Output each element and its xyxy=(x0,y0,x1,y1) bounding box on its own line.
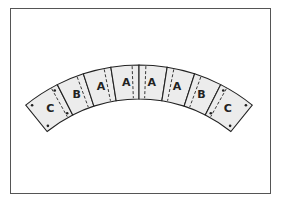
bolt-dot xyxy=(210,112,213,115)
bolt-dot xyxy=(66,112,69,115)
bolt-dot xyxy=(47,125,50,128)
bolt-dot xyxy=(53,89,56,92)
arch-block-a: A xyxy=(111,65,139,101)
bolt-dot xyxy=(245,104,248,107)
block-label: C xyxy=(224,102,232,115)
block-label: B xyxy=(197,88,205,101)
bolt-dot xyxy=(222,89,225,92)
bolt-dot xyxy=(229,125,232,128)
block-label: A xyxy=(97,80,106,93)
block-label: A xyxy=(148,76,157,89)
bolt-dot xyxy=(31,104,34,107)
arch-diagram: CBAAAABC xyxy=(0,0,281,203)
block-label: A xyxy=(122,76,131,89)
block-label: C xyxy=(46,102,54,115)
block-label: B xyxy=(72,88,80,101)
block-label: A xyxy=(173,80,182,93)
